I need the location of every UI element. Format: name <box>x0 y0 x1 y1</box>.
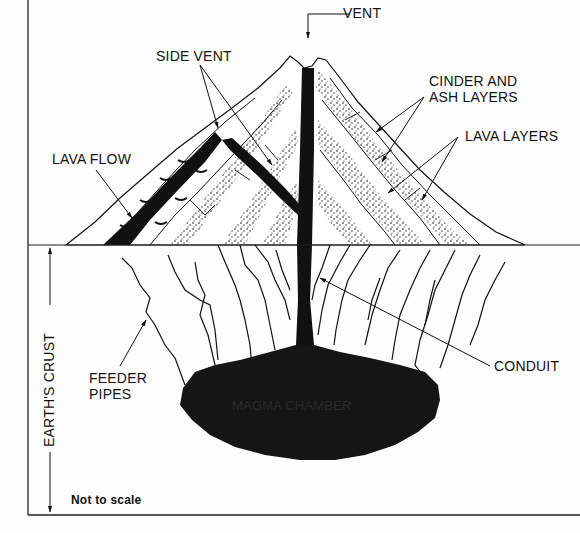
label-lava-flow: LAVA FLOW <box>52 152 131 167</box>
label-conduit: CONDUIT <box>494 359 559 374</box>
label-side-vent: SIDE VENT <box>156 49 232 64</box>
label-feeder-2: PIPES <box>89 387 131 402</box>
label-vent: VENT <box>343 6 381 21</box>
label-lava-layers: LAVA LAYERS <box>465 129 558 144</box>
label-earths-crust: EARTH'S CRUST <box>42 333 57 447</box>
label-magma-chamber: MAGMA CHAMBER <box>232 398 352 413</box>
label-not-to-scale: Not to scale <box>71 493 141 508</box>
label-cinder-ash-1: CINDER AND <box>429 74 517 89</box>
label-feeder-1: FEEDER <box>89 371 147 386</box>
label-cinder-ash-2: ASH LAYERS <box>429 90 518 105</box>
volcano-diagram: VENT SIDE VENT CINDER AND ASH LAYERS LAV… <box>0 0 580 533</box>
